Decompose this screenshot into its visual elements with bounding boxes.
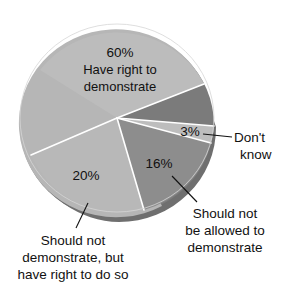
label-20-line1: Should not: [41, 233, 106, 248]
label-16-line1: Should not: [193, 206, 258, 221]
label-60-line2: demonstrate: [84, 79, 156, 94]
pie-chart-figure: 60% Have right to demonstrate 3% Don't k…: [0, 0, 290, 301]
label-60-percent: 60%: [106, 45, 133, 60]
label-16-percent: 16%: [145, 156, 172, 171]
label-dont-know-line2: know: [240, 147, 272, 162]
label-dont-know: Don't know: [234, 130, 272, 162]
label-dont-know-line1: Don't: [234, 130, 265, 145]
label-should-not-demonstrate: Should not demonstrate, but have right t…: [17, 233, 128, 282]
label-20-line2: demonstrate, but: [22, 250, 124, 265]
label-should-not-be-allowed: Should not be allowed to demonstrate: [185, 206, 265, 255]
label-3-percent: 3%: [180, 124, 200, 139]
label-16-line2: be allowed to: [185, 223, 265, 238]
label-20-line3: have right to do so: [17, 267, 128, 282]
label-20-percent: 20%: [72, 168, 99, 183]
label-60-line1: Have right to: [83, 62, 157, 77]
label-16-line3: demonstrate: [187, 240, 262, 255]
pie-chart-svg: 60% Have right to demonstrate 3% Don't k…: [0, 0, 290, 301]
